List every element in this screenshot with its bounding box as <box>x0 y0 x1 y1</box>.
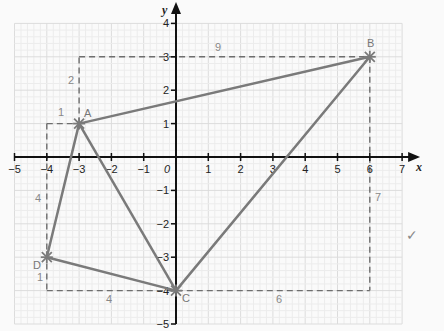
length-label-right: 7 <box>375 191 381 203</box>
origin-label: 0 <box>164 163 171 175</box>
diagonal-ac <box>79 124 176 291</box>
x-tick-label: 1 <box>205 163 211 175</box>
x-tick-label: 2 <box>238 163 244 175</box>
y-tick-label: −1 <box>156 184 169 196</box>
length-label-a-left: 1 <box>58 106 64 118</box>
y-tick-label: −5 <box>156 318 169 330</box>
y-axis-arrow-icon <box>171 2 181 14</box>
point-marker-c-icon <box>170 285 182 297</box>
x-tick-label: 4 <box>302 163 308 175</box>
x-axis-label: x <box>415 160 422 174</box>
y-tick-label: 2 <box>163 84 169 96</box>
length-label-bottom-right: 6 <box>276 293 282 305</box>
x-tick-label: 7 <box>399 163 405 175</box>
x-tick-label: −4 <box>41 163 54 175</box>
y-axis-label: y <box>160 3 168 17</box>
y-tick-label: −2 <box>156 218 169 230</box>
y-tick-label: 4 <box>163 17 169 29</box>
check-mark-icon: ✓ <box>406 227 418 243</box>
x-tick-label: −1 <box>137 163 150 175</box>
coordinate-diagram: −5−4−3−2−112345674321−1−2−3−4−50xy A B C… <box>0 0 444 331</box>
x-tick-label: −5 <box>8 163 21 175</box>
length-label-a-up: 2 <box>68 74 74 86</box>
y-tick-label: 3 <box>163 51 169 63</box>
length-label-bottom-left: 4 <box>106 293 112 305</box>
length-label-top: 9 <box>215 41 221 53</box>
point-label-d: D <box>33 259 41 271</box>
x-tick-label: −3 <box>73 163 86 175</box>
x-tick-label: 5 <box>334 163 340 175</box>
point-marker-a-icon <box>73 118 85 130</box>
point-marker-b-icon <box>364 51 376 63</box>
point-label-a: A <box>84 107 92 119</box>
x-tick-label: 6 <box>367 163 373 175</box>
y-tick-label: 1 <box>163 118 169 130</box>
length-label-d-up: 4 <box>35 192 41 204</box>
point-marker-d-icon <box>41 251 53 263</box>
length-label-d-down: 1 <box>37 271 43 283</box>
point-label-b: B <box>367 37 374 49</box>
point-label-c: C <box>182 292 190 304</box>
